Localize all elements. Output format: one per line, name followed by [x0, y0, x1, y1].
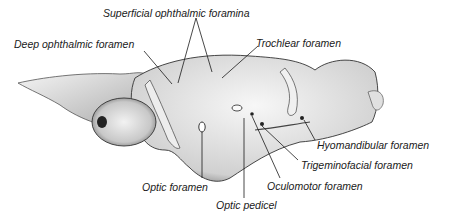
- optic-pedicel-knob: [232, 105, 242, 111]
- label-trigeminofacial-foramen: Trigeminofacial foramen: [301, 160, 413, 171]
- label-optic-foramen: Optic foramen: [142, 182, 208, 193]
- hyomandibular-hole: [300, 116, 304, 120]
- label-hyomandibular-foramen: Hyomandibular foramen: [317, 140, 429, 151]
- label-deep-ophthalmic-foramen: Deep ophthalmic foramen: [14, 39, 134, 50]
- capsule-opening: [97, 116, 107, 128]
- skull-illustration: [0, 0, 459, 222]
- anatomical-figure: Superficial ophthalmic foramina Deep oph…: [0, 0, 459, 222]
- trigeminofacial-hole: [260, 122, 264, 126]
- oculomotor-hole: [250, 112, 254, 116]
- label-optic-pedicel: Optic pedicel: [216, 200, 277, 211]
- label-oculomotor-foramen: Oculomotor foramen: [267, 181, 363, 192]
- label-trochlear-foramen: Trochlear foramen: [256, 38, 341, 49]
- optic-foramen-hole: [199, 122, 205, 132]
- label-superficial-ophthalmic-foramina: Superficial ophthalmic foramina: [103, 8, 250, 19]
